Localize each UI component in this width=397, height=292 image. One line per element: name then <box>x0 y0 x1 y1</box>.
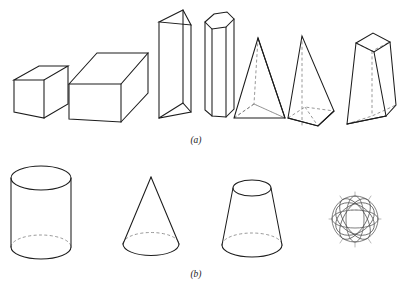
shape-square-pyramid <box>288 36 334 126</box>
shape-sphere <box>329 192 381 247</box>
shape-cube <box>14 66 68 118</box>
shape-rectangular-prism <box>69 53 148 122</box>
shape-truncated-cone <box>222 180 282 257</box>
row-b-shapes: (b) <box>11 166 381 280</box>
shape-triangular-pyramid <box>234 38 285 118</box>
caption-row-a: (a) <box>190 135 201 146</box>
shape-cylinder <box>11 166 71 259</box>
figure-canvas: (a) <box>0 0 397 292</box>
shape-triangular-prism <box>159 10 191 118</box>
shape-cone <box>123 177 179 256</box>
row-a-shapes: (a) <box>14 10 396 146</box>
shape-truncated-pyramid <box>347 33 396 124</box>
caption-row-b: (b) <box>190 269 201 280</box>
geometric-solids-figure: (a) <box>0 0 397 292</box>
shape-hexagonal-prism <box>205 12 234 117</box>
